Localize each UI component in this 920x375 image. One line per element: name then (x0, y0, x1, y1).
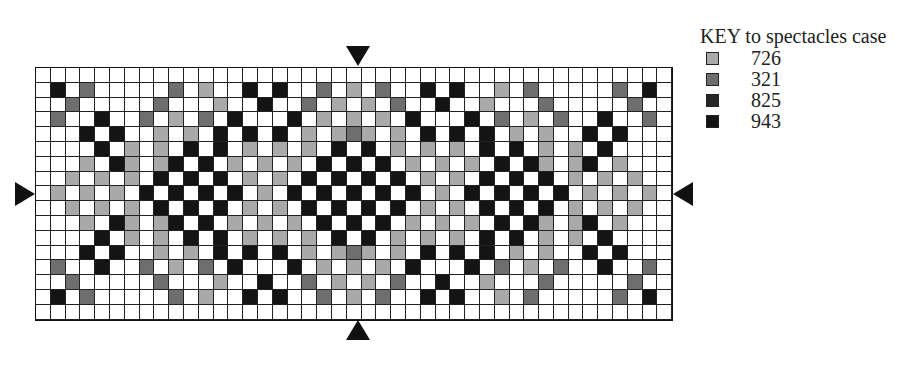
grid-cell (258, 127, 273, 142)
grid-cell (554, 172, 569, 187)
grid-cell (554, 186, 569, 201)
grid-cell (95, 127, 110, 142)
grid-cell (199, 83, 214, 98)
grid-cell (169, 186, 184, 201)
grid-cell (243, 186, 258, 201)
grid-cell (362, 142, 377, 157)
grid-cell (598, 83, 613, 98)
grid-cell (288, 290, 303, 305)
grid-cell (657, 186, 672, 201)
grid-cell (554, 201, 569, 216)
grid-cell (421, 231, 436, 246)
grid-cell (583, 98, 598, 113)
grid-cell (554, 275, 569, 290)
grid-cell (524, 142, 539, 157)
grid-cell (524, 127, 539, 142)
grid-cell (51, 142, 66, 157)
grid-cell (95, 157, 110, 172)
grid-cell (554, 83, 569, 98)
grid-cell (66, 157, 81, 172)
grid-cell (613, 172, 628, 187)
grid-cell (199, 157, 214, 172)
grid-cell (362, 112, 377, 127)
grid-cell (288, 201, 303, 216)
grid-cell (95, 260, 110, 275)
grid-cell (51, 98, 66, 113)
grid-cell (302, 172, 317, 187)
grid-cell (657, 246, 672, 261)
grid-cell (436, 231, 451, 246)
grid-cell (95, 112, 110, 127)
grid-cell (524, 231, 539, 246)
grid-cell (332, 186, 347, 201)
grid-cell (199, 260, 214, 275)
grid-cell (465, 98, 480, 113)
grid-cell (598, 275, 613, 290)
grid-cell (154, 216, 169, 231)
grid-cell (436, 68, 451, 83)
grid-cell (140, 260, 155, 275)
grid-cell (613, 260, 628, 275)
grid-cell (243, 275, 258, 290)
grid-cell (554, 127, 569, 142)
grid-cell (480, 201, 495, 216)
grid-cell (347, 290, 362, 305)
grid-cell (199, 290, 214, 305)
grid-cell (169, 260, 184, 275)
grid-cell (465, 231, 480, 246)
grid-cell (510, 246, 525, 261)
grid-cell (125, 231, 140, 246)
grid-cell (362, 275, 377, 290)
grid-cell (110, 305, 125, 320)
grid-cell (450, 83, 465, 98)
grid-cell (110, 83, 125, 98)
grid-cell (51, 246, 66, 261)
grid-cell (406, 172, 421, 187)
center-marker-bottom-icon (346, 320, 370, 340)
grid-cell (95, 142, 110, 157)
grid-cell (125, 68, 140, 83)
grid-cell (288, 157, 303, 172)
grid-cell (376, 260, 391, 275)
grid-cell (524, 246, 539, 261)
grid-cell (362, 246, 377, 261)
grid-cell (214, 216, 229, 231)
grid-cell (273, 112, 288, 127)
grid-cell (288, 260, 303, 275)
grid-cell (95, 172, 110, 187)
grid-cell (66, 142, 81, 157)
grid-cell (628, 186, 643, 201)
grid-cell (214, 172, 229, 187)
grid-cell (51, 127, 66, 142)
grid-cell (406, 260, 421, 275)
grid-cell (273, 142, 288, 157)
grid-cell (302, 68, 317, 83)
grid-cell (140, 157, 155, 172)
grid-cell (657, 68, 672, 83)
grid-cell (569, 201, 584, 216)
grid-cell (302, 127, 317, 142)
grid-cell (36, 186, 51, 201)
grid-cell (510, 290, 525, 305)
grid-cell (80, 305, 95, 320)
grid-cell (95, 246, 110, 261)
grid-cell (406, 142, 421, 157)
grid-cell (140, 231, 155, 246)
grid-cell (214, 83, 229, 98)
grid-cell (110, 275, 125, 290)
grid-cell (628, 246, 643, 261)
grid-cell (125, 142, 140, 157)
grid-cell (613, 127, 628, 142)
grid-cell (95, 305, 110, 320)
grid-cell (140, 68, 155, 83)
grid-cell (598, 68, 613, 83)
grid-cell (51, 172, 66, 187)
grid-cell (554, 112, 569, 127)
grid-cell (228, 305, 243, 320)
grid-cell (184, 83, 199, 98)
grid-cell (406, 216, 421, 231)
grid-cell (524, 305, 539, 320)
grid-cell (628, 275, 643, 290)
grid-cell (317, 246, 332, 261)
grid-cell (495, 290, 510, 305)
